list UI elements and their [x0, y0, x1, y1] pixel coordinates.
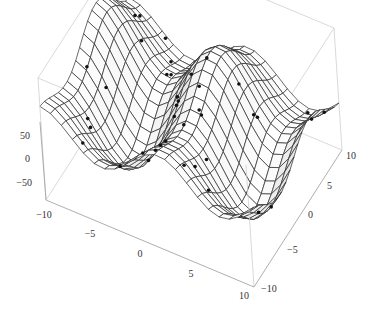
data-point [169, 60, 173, 64]
x-tick-label: 10 [239, 290, 249, 301]
data-point [89, 126, 93, 130]
box-edge [334, 28, 342, 150]
x-tick-label: 5 [189, 268, 194, 279]
data-point [200, 113, 204, 117]
z-tick-label: 0 [25, 153, 30, 164]
data-point [164, 139, 168, 143]
data-point [190, 72, 194, 76]
data-point [252, 113, 256, 117]
data-point [159, 143, 163, 147]
x-tick-label: −10 [36, 209, 52, 220]
data-point [133, 14, 137, 18]
data-point [237, 82, 241, 86]
data-point [323, 110, 327, 114]
data-point [310, 117, 314, 121]
data-point [147, 159, 151, 163]
x-tick-label: −5 [85, 228, 96, 239]
y-tick-label: −5 [287, 244, 298, 255]
data-point [205, 158, 209, 162]
data-point [169, 73, 173, 77]
data-point [182, 163, 186, 167]
data-point [118, 165, 122, 169]
box-edge [126, 0, 334, 28]
y-tick-label: 0 [308, 209, 313, 220]
x-tick-label: 0 [138, 248, 143, 259]
data-point [269, 205, 273, 209]
data-point [81, 141, 85, 145]
data-point [175, 104, 179, 108]
data-point [85, 65, 89, 69]
data-point [256, 115, 260, 119]
data-point [165, 73, 169, 77]
data-point [104, 86, 108, 90]
y-tick-label: −10 [261, 283, 277, 294]
data-point [177, 99, 181, 103]
z-tick-label: 50 [20, 130, 30, 141]
data-point [197, 108, 201, 112]
y-tick-label: 5 [327, 180, 332, 191]
data-point [182, 123, 186, 127]
data-point [173, 115, 177, 119]
data-point [164, 37, 168, 41]
data-point [197, 85, 201, 89]
data-point [193, 165, 197, 169]
data-point [154, 149, 158, 153]
data-point [205, 56, 209, 60]
data-point [257, 211, 261, 215]
y-tick-label: 10 [346, 150, 356, 161]
surface-plot-3d: 50 0 −50 −10 −5 0 5 10 10 5 0 −5 −10 [0, 0, 378, 311]
surface [40, 0, 339, 219]
z-axis-line [40, 122, 46, 200]
z-tick-label: −50 [16, 177, 32, 188]
data-point [141, 151, 145, 155]
data-point [86, 117, 90, 121]
data-point [207, 188, 211, 192]
data-point [176, 95, 180, 99]
data-point [140, 39, 144, 43]
data-point [138, 14, 142, 18]
data-point [306, 111, 310, 115]
